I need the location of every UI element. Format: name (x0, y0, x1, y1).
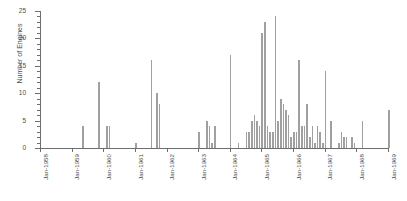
x-tick-label: Jan-1968 (359, 154, 365, 180)
x-tick (135, 148, 136, 152)
x-tick (103, 148, 104, 152)
x-tick-label: Jan-1963 (201, 154, 207, 180)
bar (362, 121, 364, 148)
x-tick (167, 148, 168, 152)
bar (325, 71, 327, 148)
bar (306, 104, 308, 148)
bar (82, 126, 84, 148)
bar (388, 110, 390, 148)
bar (230, 55, 232, 148)
bar (280, 99, 282, 148)
x-tick-label: Jan-1965 (264, 154, 270, 180)
x-tick (230, 148, 231, 152)
bar (304, 126, 306, 148)
y-tick-label: 25 (19, 8, 26, 15)
x-tick-label: Jan-1959 (74, 154, 80, 180)
bar (285, 110, 287, 148)
bar (309, 137, 311, 148)
bar (254, 115, 256, 148)
x-tick-label: Jan-1966 (296, 154, 302, 180)
plot-area (40, 11, 388, 148)
y-tick-label: 0 (22, 145, 26, 152)
bar (109, 126, 111, 148)
x-tick-label: Jan-1964 (232, 154, 238, 180)
x-tick-label: Jan-1961 (138, 154, 144, 180)
bar (298, 60, 300, 148)
bar (343, 137, 345, 148)
bar (211, 143, 213, 148)
bar (206, 121, 208, 148)
x-tick (198, 148, 199, 152)
bar (246, 132, 248, 148)
bar (317, 126, 319, 148)
bar (256, 121, 258, 148)
bar (214, 126, 216, 148)
bar (322, 143, 324, 148)
x-tick (293, 148, 294, 152)
x-tick (356, 148, 357, 152)
bar (319, 132, 321, 148)
bar (151, 60, 153, 148)
bar (283, 104, 285, 148)
x-tick (325, 148, 326, 152)
bar (301, 126, 303, 148)
y-tick-label: 5 (22, 117, 26, 124)
bar (338, 143, 340, 148)
bar (156, 93, 158, 148)
x-tick (40, 148, 41, 152)
bar (159, 104, 161, 148)
y-tick-label: 10 (19, 90, 26, 97)
x-axis-line (40, 148, 389, 149)
bar (288, 115, 290, 148)
bar (346, 137, 348, 148)
x-tick-label: Jan-1962 (169, 154, 175, 180)
bar (269, 132, 271, 148)
bar (293, 132, 295, 148)
bar (209, 126, 211, 148)
x-tick-label: Jan-1958 (43, 154, 49, 180)
y-tick-label: 15 (19, 63, 26, 70)
bar (296, 132, 298, 148)
x-tick-label: Jan-1960 (106, 154, 112, 180)
bar (267, 126, 269, 148)
bar (312, 126, 314, 148)
bar (98, 82, 100, 148)
bar (238, 143, 240, 148)
bar (198, 132, 200, 148)
x-tick (72, 148, 73, 152)
bar (248, 132, 250, 148)
bar (277, 121, 279, 148)
bar (264, 22, 266, 148)
bar (259, 126, 261, 148)
bar (275, 16, 277, 148)
bar (290, 137, 292, 148)
bar (106, 126, 108, 148)
x-tick (261, 148, 262, 152)
bar (330, 121, 332, 148)
bar (354, 143, 356, 148)
y-tick-label: 20 (19, 35, 26, 42)
bar (341, 132, 343, 148)
bar (251, 121, 253, 148)
bar (351, 137, 353, 148)
bar (314, 143, 316, 148)
y-axis-tick-labels: 0510152025 (0, 0, 34, 201)
x-tick (388, 148, 389, 152)
x-tick-label: Jan-1967 (327, 154, 333, 180)
bar (272, 132, 274, 148)
x-tick-label: Jan-1969 (391, 154, 397, 180)
engine-histogram-chart: Number of Engines 0510152025 Jan-1958Jan… (0, 0, 407, 201)
bar (261, 33, 263, 148)
